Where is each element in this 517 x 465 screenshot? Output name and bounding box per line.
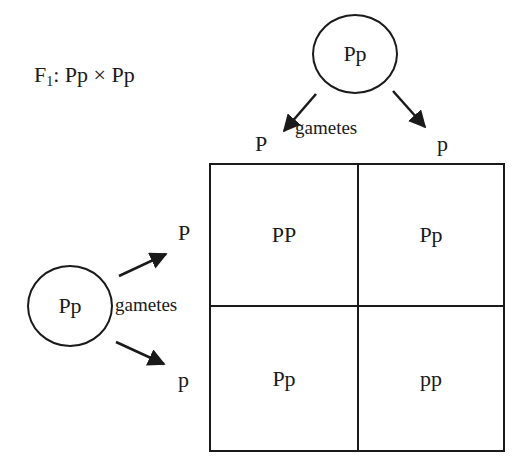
punnett-cell: PP — [211, 165, 359, 307]
arrow-icon — [119, 254, 166, 276]
punnett-square: PP Pp Pp pp — [209, 163, 505, 452]
punnett-cell: Pp — [359, 165, 503, 307]
offspring-genotype: PP — [272, 222, 296, 248]
arrow-icon — [116, 342, 164, 364]
punnett-cell: pp — [359, 307, 503, 450]
offspring-genotype: Pp — [272, 366, 295, 392]
offspring-genotype: Pp — [419, 222, 442, 248]
punnett-cell: Pp — [211, 307, 359, 450]
arrow-icon — [393, 91, 425, 127]
arrow-icon — [284, 94, 316, 131]
offspring-genotype: pp — [420, 366, 442, 392]
